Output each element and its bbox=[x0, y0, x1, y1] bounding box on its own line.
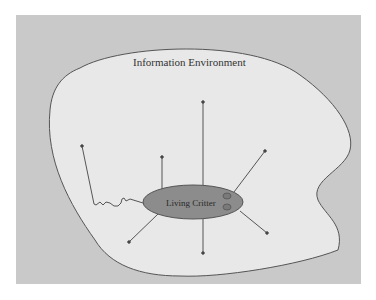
critter-eye-bottom-icon bbox=[223, 204, 231, 210]
diagram-canvas: Information Environment Living Critter bbox=[0, 0, 376, 300]
critter-eye-top-icon bbox=[223, 193, 231, 199]
information-environment-region bbox=[49, 49, 350, 276]
environment-title: Information Environment bbox=[133, 56, 246, 68]
critter-label: Living Critter bbox=[166, 198, 216, 208]
